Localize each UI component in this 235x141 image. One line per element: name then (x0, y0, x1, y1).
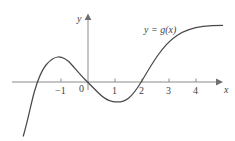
x-axis-arrow-icon (216, 79, 223, 86)
graph-figure: y x 0 −1 1 2 3 4 y = g(x) (0, 0, 235, 141)
origin-label: 0 (79, 84, 84, 94)
y-axis-arrow-icon (85, 14, 92, 21)
y-axis-label: y (77, 14, 81, 24)
function-plot (0, 0, 235, 141)
x-tick-label-minus-1: −1 (55, 86, 66, 96)
curve-annotation-label: y = g(x) (144, 25, 176, 35)
x-axis-label: x (224, 85, 228, 95)
x-tick-label-2: 2 (139, 86, 144, 96)
curve-g (23, 25, 222, 136)
x-tick-label-3: 3 (166, 86, 171, 96)
x-tick-label-4: 4 (193, 86, 198, 96)
x-axis-ticks (61, 79, 196, 83)
x-tick-label-1: 1 (112, 86, 117, 96)
